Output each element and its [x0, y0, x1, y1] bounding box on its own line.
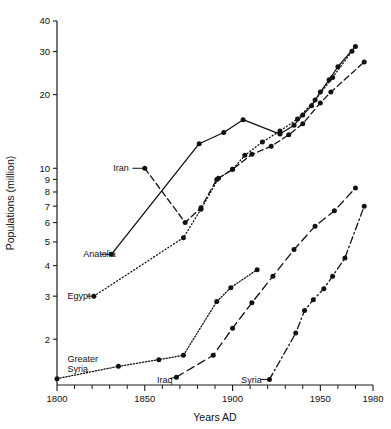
data-point-syria-6: [342, 255, 347, 260]
population-growth-chart: 4030201098765432 18001850190019501980 An…: [0, 0, 391, 429]
data-point-greater-syria-4: [214, 299, 219, 304]
data-point-iraq-4: [270, 274, 275, 279]
y-tick-label-8: 8: [45, 186, 50, 197]
data-point-iraq-6: [313, 224, 318, 229]
data-point-syria-7: [362, 204, 367, 209]
data-point-iran-2: [198, 205, 203, 210]
data-point-egypt-7: [277, 129, 282, 134]
data-point-greater-syria-5: [228, 285, 233, 290]
data-point-iran-11: [362, 59, 367, 64]
data-point-egypt-5: [242, 153, 247, 158]
series-label-egypt: Egypt: [68, 291, 92, 301]
data-point-egypt-1: [181, 235, 186, 240]
x-tick-label-1980: 1980: [362, 393, 383, 404]
y-tick-label-3: 3: [45, 291, 50, 302]
data-point-iraq-5: [292, 247, 297, 252]
data-point-iran-5: [249, 152, 254, 157]
data-point-syria-2: [302, 308, 307, 313]
data-point-iran-7: [286, 132, 291, 137]
y-tick-label-9: 9: [45, 174, 50, 185]
data-point-iran-9: [318, 100, 323, 105]
y-tick-label-20: 20: [39, 89, 50, 100]
data-point-egypt-9: [313, 98, 318, 103]
y-axis-title: Populations (million): [4, 156, 16, 251]
data-point-egypt-11: [349, 49, 354, 54]
data-point-greater-syria-0: [55, 376, 60, 381]
y-tick-label-30: 30: [39, 46, 50, 57]
data-point-syria-3: [311, 297, 316, 302]
y-tick-label-6: 6: [45, 217, 50, 228]
data-point-anatolia-1: [197, 141, 202, 146]
data-point-anatolia-8: [318, 90, 323, 95]
y-tick-label-7: 7: [45, 201, 50, 212]
y-tick-label-2: 2: [45, 334, 50, 345]
data-point-iraq-3: [249, 300, 254, 305]
data-point-anatolia-7: [309, 103, 314, 108]
data-point-greater-syria-1: [116, 364, 121, 369]
data-point-iran-8: [300, 121, 305, 126]
data-point-iran-6: [269, 144, 274, 149]
chart-canvas: 4030201098765432 18001850190019501980 An…: [0, 0, 391, 429]
data-point-iran-1: [183, 220, 188, 225]
data-point-anatolia-6: [300, 113, 305, 118]
y-tick-label-40: 40: [39, 15, 50, 26]
data-point-anatolia-2: [221, 130, 226, 135]
data-point-iraq-2: [230, 326, 235, 331]
y-tick-label-5: 5: [45, 236, 50, 247]
x-tick-label-1850: 1850: [134, 393, 155, 404]
data-point-egypt-6: [260, 140, 265, 145]
x-axis-title: Years AD: [193, 411, 237, 423]
y-tick-label-10: 10: [39, 163, 50, 174]
x-tick-label-1900: 1900: [222, 393, 243, 404]
data-point-egypt-10: [330, 75, 335, 80]
data-point-iran-3: [214, 177, 219, 182]
data-point-egypt-8: [295, 117, 300, 122]
data-point-syria-4: [321, 286, 326, 291]
data-point-iran-4: [230, 167, 235, 172]
x-tick-label-1800: 1800: [46, 393, 67, 404]
data-point-greater-syria-3: [181, 353, 186, 358]
data-point-greater-syria-2: [156, 357, 161, 362]
data-point-anatolia-5: [292, 123, 297, 128]
data-point-anatolia-10: [335, 64, 340, 69]
data-point-greater-syria-6: [255, 267, 260, 272]
data-point-syria-1: [293, 331, 298, 336]
series-label-syria: Syria: [241, 375, 262, 385]
data-point-syria-5: [330, 274, 335, 279]
series-label-iran: Iran: [113, 163, 129, 173]
data-point-iran-10: [328, 90, 333, 95]
series-label-anatolia: Anatolia: [83, 249, 116, 259]
data-point-iraq-8: [353, 186, 358, 191]
x-tick-label-1950: 1950: [310, 393, 331, 404]
data-point-anatolia-3: [241, 117, 246, 122]
data-point-anatolia-11: [353, 44, 358, 49]
data-point-iraq-7: [332, 208, 337, 213]
series-label-iraq: Iraq: [157, 375, 173, 385]
chart-background: [0, 0, 391, 429]
y-tick-label-4: 4: [45, 260, 50, 271]
data-point-iraq-1: [211, 353, 216, 358]
